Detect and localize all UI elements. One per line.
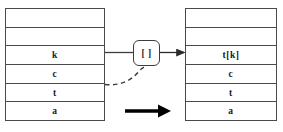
output-stack: t[k] c t a (185, 8, 277, 121)
stack-cell-c: c (6, 65, 104, 84)
stack-cell-a: a (186, 102, 276, 120)
dashed-curve (105, 66, 146, 85)
bold-transform-arrow (125, 105, 171, 118)
stack-cell-t: t (186, 84, 276, 103)
stack-cell (186, 9, 276, 28)
stack-cell-t: t (6, 84, 104, 103)
stack-cell-a: a (6, 102, 104, 120)
stack-cell (6, 9, 104, 28)
stack-cell (6, 28, 104, 47)
diagram-canvas: k c t a t[k] c t a [ ] (0, 0, 283, 132)
input-stack: k c t a (5, 8, 105, 121)
index-operator-box: [ ] (133, 40, 160, 66)
stack-cell (186, 28, 276, 47)
stack-cell-k: k (6, 46, 104, 65)
stack-cell-tk: t[k] (186, 46, 276, 65)
stack-cell-c: c (186, 65, 276, 84)
